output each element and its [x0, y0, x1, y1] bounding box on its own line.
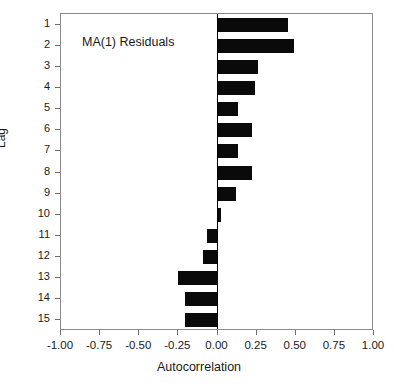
x-tick-mark-2 [138, 330, 139, 335]
bar-lag-9 [218, 187, 237, 201]
y-tick-mark-13 [55, 277, 60, 278]
y-tick-label-2: 2 [24, 39, 50, 50]
x-tick-label-8: 1.00 [351, 339, 395, 351]
y-tick-label-11: 11 [24, 229, 50, 240]
x-tick-mark-0 [60, 330, 61, 335]
y-tick-label-1: 1 [24, 18, 50, 29]
y-tick-mark-6 [55, 129, 60, 130]
y-tick-label-10: 10 [24, 208, 50, 219]
bar-lag-6 [218, 123, 252, 137]
y-tick-label-3: 3 [24, 60, 50, 71]
y-tick-label-6: 6 [24, 123, 50, 134]
y-tick-label-4: 4 [24, 81, 50, 92]
y-tick-mark-8 [55, 172, 60, 173]
x-axis-title: Autocorrelation [0, 360, 398, 374]
y-tick-label-12: 12 [24, 250, 50, 261]
y-tick-mark-2 [55, 45, 60, 46]
y-tick-mark-4 [55, 87, 60, 88]
x-tick-label-2: -0.50 [116, 339, 160, 351]
x-tick-mark-3 [177, 330, 178, 335]
bar-lag-15 [185, 313, 218, 327]
x-tick-mark-5 [256, 330, 257, 335]
bar-lag-5 [218, 102, 238, 116]
bar-lag-7 [218, 144, 238, 158]
bar-lag-2 [218, 39, 295, 53]
x-tick-label-6: 0.50 [273, 339, 317, 351]
x-tick-label-3: -0.25 [155, 339, 199, 351]
y-tick-label-5: 5 [24, 102, 50, 113]
y-tick-mark-14 [55, 298, 60, 299]
x-tick-label-0: -1.00 [38, 339, 82, 351]
y-tick-label-15: 15 [24, 313, 50, 324]
x-tick-mark-4 [217, 330, 218, 335]
bar-lag-14 [185, 292, 218, 306]
y-tick-mark-1 [55, 24, 60, 25]
autocorrelation-chart: Lag Autocorrelation MA(1) Residuals 1234… [0, 0, 398, 384]
bar-lag-12 [203, 250, 217, 264]
bar-lag-13 [178, 271, 217, 285]
plot-area [60, 13, 373, 330]
y-tick-mark-3 [55, 66, 60, 67]
bar-lag-8 [218, 166, 252, 180]
y-tick-label-9: 9 [24, 187, 50, 198]
bar-lag-11 [207, 229, 218, 243]
y-tick-label-13: 13 [24, 271, 50, 282]
y-tick-label-7: 7 [24, 144, 50, 155]
x-tick-label-4: 0.00 [195, 339, 239, 351]
chart-annotation: MA(1) Residuals [82, 35, 174, 49]
y-tick-mark-11 [55, 235, 60, 236]
x-tick-mark-6 [295, 330, 296, 335]
x-tick-mark-7 [334, 330, 335, 335]
y-tick-mark-9 [55, 193, 60, 194]
x-tick-label-5: 0.25 [234, 339, 278, 351]
x-tick-label-1: -0.75 [77, 339, 121, 351]
bar-lag-3 [218, 60, 259, 74]
y-tick-mark-12 [55, 256, 60, 257]
y-axis-title: Lag [0, 128, 8, 148]
bar-lag-4 [218, 81, 256, 95]
y-tick-label-14: 14 [24, 292, 50, 303]
bar-lag-1 [218, 18, 288, 32]
x-tick-mark-8 [373, 330, 374, 335]
y-tick-mark-5 [55, 108, 60, 109]
y-tick-mark-15 [55, 319, 60, 320]
bar-lag-10 [218, 208, 221, 222]
y-tick-label-8: 8 [24, 166, 50, 177]
x-tick-label-7: 0.75 [312, 339, 356, 351]
x-tick-mark-1 [99, 330, 100, 335]
y-tick-mark-10 [55, 214, 60, 215]
y-tick-mark-7 [55, 150, 60, 151]
